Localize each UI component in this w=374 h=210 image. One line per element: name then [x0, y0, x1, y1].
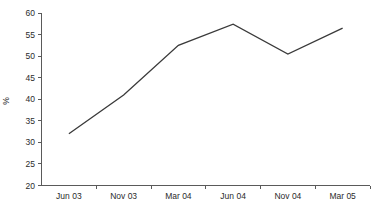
y-axis-title: %	[1, 97, 11, 105]
y-tick-label: 55	[26, 30, 36, 40]
chart-canvas: 202530354045505560 % Jun 03Nov 03Mar 04J…	[0, 0, 374, 210]
y-tick-label: 25	[26, 159, 36, 169]
x-tick-label: Mar 05	[329, 191, 356, 201]
x-tick-label: Mar 04	[165, 191, 192, 201]
y-tick-label: 30	[26, 137, 36, 147]
x-tick-label: Nov 04	[274, 191, 301, 201]
y-tick-label: 45	[26, 73, 36, 83]
y-tick-label: 40	[26, 94, 36, 104]
x-tick-label: Jun 03	[56, 191, 82, 201]
x-tick-label: Jun 04	[220, 191, 246, 201]
line-chart: 202530354045505560 % Jun 03Nov 03Mar 04J…	[0, 0, 374, 210]
y-tick-label: 60	[26, 8, 36, 18]
chart-background	[0, 0, 374, 210]
y-tick-label: 20	[26, 181, 36, 191]
x-tick-label: Nov 03	[110, 191, 137, 201]
y-tick-label: 50	[26, 51, 36, 61]
y-tick-label: 35	[26, 116, 36, 126]
y-tick-label-group: 202530354045505560	[26, 8, 36, 191]
